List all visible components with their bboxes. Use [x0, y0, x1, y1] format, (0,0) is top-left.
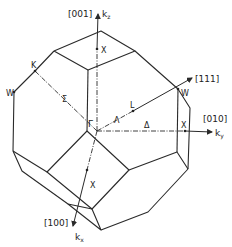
- zone-edges: [13, 31, 190, 230]
- sigma-line: [13, 70, 97, 131]
- kz-axis: [96, 14, 99, 131]
- label-x-right: X: [181, 121, 187, 130]
- ky-axis: [97, 130, 212, 133]
- label-100: [100]: [44, 218, 68, 228]
- label-w-right: W: [181, 89, 189, 98]
- label-l: L: [130, 101, 135, 110]
- label-k: K: [31, 61, 37, 70]
- label-010: [010]: [203, 114, 227, 124]
- brillouin-zone-diagram: [001] kz X K W Σ [111] W L Λ Γ [010] Δ X…: [0, 0, 232, 247]
- label-sigma: Σ: [62, 95, 67, 104]
- label-gamma: Γ: [88, 119, 93, 129]
- label-kx: kx: [75, 232, 84, 243]
- label-111: [111]: [195, 74, 219, 84]
- label-delta: Δ: [144, 121, 150, 130]
- label-lambda: Λ: [114, 116, 120, 125]
- x-front-point: [86, 169, 89, 172]
- x-top-point: [96, 48, 99, 51]
- diagram-svg: [001] kz X K W Σ [111] W L Λ Γ [010] Δ X…: [0, 0, 232, 247]
- label-x-top: X: [101, 46, 107, 55]
- label-w-left: W: [6, 89, 14, 98]
- w-right-point: [177, 88, 180, 91]
- label-kz: kz: [102, 9, 110, 20]
- x-right-point: [184, 130, 187, 133]
- k-point: [34, 70, 37, 73]
- label-001: [001]: [68, 9, 92, 19]
- l-point: [132, 110, 135, 113]
- label-ky: ky: [215, 128, 224, 140]
- label-x-front: X: [90, 181, 96, 190]
